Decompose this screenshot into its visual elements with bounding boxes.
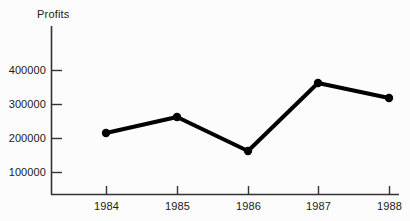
y-tick-label-200000: 200000 (0, 132, 46, 144)
data-point-1984 (102, 129, 110, 137)
chart-plot-area (0, 0, 410, 221)
x-tick-label-1987: 1987 (293, 200, 344, 212)
y-tick-label-300000: 300000 (0, 98, 46, 110)
y-tick-label-100000: 100000 (0, 166, 46, 178)
data-point-1985 (173, 113, 181, 121)
x-tick-label-1985: 1985 (152, 200, 203, 212)
data-line-profits (106, 83, 389, 151)
line-chart: Profits 400000 300000 200000 100000 1984… (0, 0, 410, 221)
x-tick-label-1984: 1984 (81, 200, 132, 212)
data-point-1987 (314, 79, 322, 87)
data-point-1986 (244, 147, 252, 155)
y-tick-label-400000: 400000 (0, 64, 46, 76)
x-tick-label-1986: 1986 (223, 200, 274, 212)
data-point-1988 (385, 94, 393, 102)
x-tick-label-1988: 1988 (364, 200, 410, 212)
